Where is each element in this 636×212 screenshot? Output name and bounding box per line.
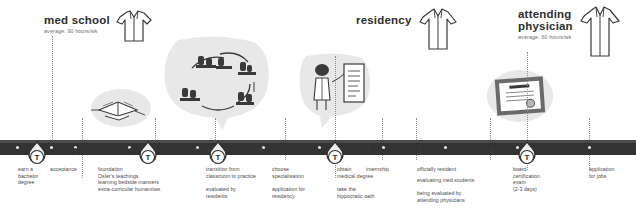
phase-header-med-school: med school average: 90 hours/wk bbox=[44, 14, 154, 48]
timeline-highlight bbox=[0, 140, 636, 143]
phase-title: med school bbox=[44, 14, 110, 26]
timeline-tick bbox=[318, 146, 321, 149]
step-number-acceptance: 1 bbox=[73, 147, 78, 156]
phase-title: residency bbox=[356, 14, 412, 26]
step-caption-choose-specialisation: choose specialisation bbox=[272, 166, 332, 179]
step-number-officially-resident: 2 bbox=[417, 147, 422, 156]
timeline-bar bbox=[0, 140, 636, 155]
milestone-badge-board-exam[interactable]: T bbox=[515, 141, 539, 168]
step-number-foundation: 2 bbox=[128, 147, 133, 156]
step-caption-foundation: foundation Osler's teachings learning be… bbox=[98, 166, 208, 192]
phase-subtitle: average: 60 hours/wk bbox=[518, 34, 573, 41]
short-white-coat-icon bbox=[114, 8, 154, 48]
classroom-cycle-illustration bbox=[158, 32, 276, 132]
step-number-board-exam: 3 bbox=[490, 147, 495, 156]
step-caption-transition-evaluation: evaluated by residents bbox=[206, 186, 268, 199]
badge-letter: T bbox=[35, 153, 40, 162]
phase-header-attending-physician: attending physician average: 60 hours/wk bbox=[518, 8, 622, 64]
step-caption-residency-application: application for residency bbox=[272, 186, 332, 199]
timeline-tick bbox=[16, 146, 19, 149]
milestone-badge-foundation[interactable]: T bbox=[136, 141, 160, 168]
timeline-tick bbox=[588, 146, 591, 149]
guide-line bbox=[52, 36, 53, 140]
timeline-tick bbox=[444, 146, 447, 149]
step-caption-internship: internship bbox=[366, 166, 416, 173]
badge-letter: T bbox=[216, 153, 221, 162]
framed-certificate-illustration bbox=[482, 66, 558, 128]
step-caption-officially-resident: officially resident bbox=[417, 166, 507, 173]
step-caption-application-for-jobs: application for jobs bbox=[589, 166, 635, 179]
step-number-transition: 3 bbox=[192, 147, 197, 156]
milestone-badge-bachelor[interactable]: T bbox=[25, 141, 49, 168]
badge-letter: T bbox=[525, 153, 530, 162]
phase-subtitle: average: 90 hours/wk bbox=[44, 28, 110, 35]
timeline-infographic: med school average: 90 hours/wk residenc… bbox=[0, 0, 636, 212]
phase-title: attending physician bbox=[518, 8, 573, 32]
milestone-badge-transition[interactable]: T bbox=[206, 141, 230, 168]
badge-letter: T bbox=[333, 153, 338, 162]
timeline-tick bbox=[50, 146, 53, 149]
step-number-specialisation: 4 bbox=[258, 147, 263, 156]
timeline-tick bbox=[382, 146, 385, 149]
milestone-badge-medical-degree[interactable]: T bbox=[323, 141, 347, 168]
step-caption-resident-duties: evaluating med students being evaluated … bbox=[417, 177, 507, 203]
step-number-internship: 1 bbox=[366, 147, 371, 156]
step-caption-hippocratic-oath: take the hippocratic oath bbox=[337, 186, 399, 199]
step-caption-transition-to-practice: transition from classroom to practice bbox=[206, 166, 268, 179]
step-caption-acceptance: acceptance bbox=[50, 166, 94, 173]
open-book-illustration bbox=[85, 80, 155, 132]
long-white-coat-icon bbox=[578, 4, 622, 64]
step-caption-board-certification-exam: board certification exam (2-3 days) bbox=[513, 166, 573, 192]
badge-letter: T bbox=[146, 153, 151, 162]
medium-white-coat-icon bbox=[417, 6, 459, 56]
